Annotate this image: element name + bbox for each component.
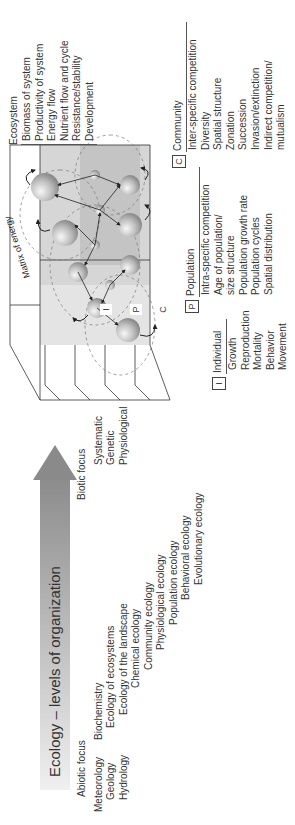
population-item: Age of population/ xyxy=(213,167,226,295)
population-panel: PPopulation Intra-specific competition A… xyxy=(185,167,276,313)
population-tag: P xyxy=(185,300,199,313)
individual-item: Reproduction xyxy=(240,311,253,370)
community-item: Succession xyxy=(237,22,250,150)
ecosystem-heading: Ecosystem xyxy=(8,40,20,145)
community-item: Diversity xyxy=(200,22,213,150)
population-item: Intra-specific competition xyxy=(200,167,213,295)
community-item: Spatial structure xyxy=(212,22,225,150)
individual-heading: Individual xyxy=(212,331,223,373)
community-tag: C xyxy=(172,155,186,168)
ecosystem-item: Energy flow xyxy=(46,40,59,141)
population-item: size structure xyxy=(225,167,238,295)
ecosystem-panel: Ecosystem Biomass of system Productivity… xyxy=(8,40,97,145)
community-item: Zonation xyxy=(225,22,238,150)
community-panel: CCommunity Inter-specific competition Di… xyxy=(172,22,288,168)
individual-panel: IIndividual Growth Reproduction Mortalit… xyxy=(212,311,290,390)
level-tag-population: P xyxy=(130,304,142,315)
community-item: Inter-specific competition xyxy=(187,22,200,150)
community-item: Indirect competition/ xyxy=(263,22,276,150)
matrix-of-energy-label: Matrix of energy xyxy=(2,215,32,280)
individual-item: Behavior xyxy=(265,311,278,370)
population-item: Population cycles xyxy=(250,167,263,295)
community-heading: Community xyxy=(172,100,183,151)
individual-item: Movement xyxy=(277,311,290,370)
ecosystem-item: Development xyxy=(84,40,97,141)
ecosystem-item: Resistance/stability xyxy=(71,40,84,141)
individual-item: Growth xyxy=(227,311,240,370)
community-item: Invasion/extinction xyxy=(250,22,263,150)
individual-tag: I xyxy=(212,377,226,390)
individual-item: Mortality xyxy=(252,311,265,370)
population-heading: Population xyxy=(185,249,196,296)
population-item: Spatial distribution xyxy=(263,167,276,295)
population-item: Population growth rate xyxy=(238,167,251,295)
ecosystem-item: Biomass of system xyxy=(21,40,34,141)
ecosystem-item: Productivity of system xyxy=(34,40,47,141)
ecology-levels-figure: Ecology – levels of organization Abiotic… xyxy=(0,0,295,825)
ecosystem-item: Nutrient flow and cycle xyxy=(59,40,72,141)
community-item: mutualism xyxy=(275,22,288,150)
level-tag-community: C xyxy=(157,304,169,315)
level-tag-individual: I xyxy=(100,304,112,315)
